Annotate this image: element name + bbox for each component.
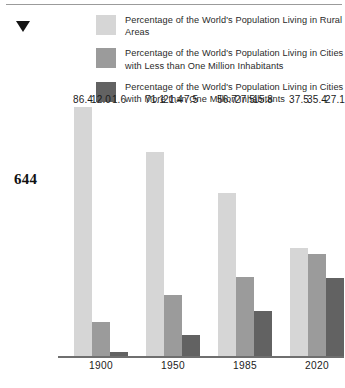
bar-column[interactable]: 86.4 <box>74 107 92 356</box>
bar-column[interactable]: 27.1 <box>326 107 344 356</box>
bar[interactable]: 37.5 <box>290 248 308 356</box>
top-divider <box>6 4 342 5</box>
bar-value-label: 35.4 <box>307 93 327 107</box>
bar[interactable]: 12.0 <box>92 322 110 357</box>
x-axis-tick-label: 1985 <box>218 356 272 376</box>
bar-group: 37.535.427.12020 <box>290 107 344 356</box>
bar-column[interactable]: 1.6 <box>110 107 128 356</box>
bar-column[interactable]: 7.5 <box>182 107 200 356</box>
bar-value-label: 27.5 <box>235 93 255 107</box>
bar[interactable]: 15.8 <box>254 311 272 357</box>
bar-value-label: 12.0 <box>91 93 111 107</box>
bar-value-label: 21.4 <box>163 93 183 107</box>
bar[interactable]: 56.7 <box>218 193 236 356</box>
bar[interactable]: 7.5 <box>182 335 200 357</box>
bar[interactable]: 27.1 <box>326 278 344 356</box>
bar-value-label: 86.4 <box>73 93 93 107</box>
bar-column[interactable]: 27.5 <box>236 107 254 356</box>
bar[interactable]: 86.4 <box>74 107 92 356</box>
x-axis-tick-label: 1950 <box>146 356 200 376</box>
chart-plot-area: 86.412.01.6190071.121.47.5195056.727.515… <box>58 60 344 358</box>
x-axis-tick-label: 1900 <box>74 356 128 376</box>
bar[interactable]: 21.4 <box>164 295 182 357</box>
bar[interactable]: 71.1 <box>146 152 164 357</box>
legend-swatch-rural <box>96 15 116 35</box>
bar-column[interactable]: 71.1 <box>146 107 164 356</box>
bar-column[interactable]: 12.0 <box>92 107 110 356</box>
legend-item: Percentage of the World's Population Liv… <box>96 14 344 38</box>
bar-group: 86.412.01.61900 <box>74 107 128 356</box>
x-axis-tick-label: 2020 <box>290 356 344 376</box>
bar-value-label: 7.5 <box>184 93 198 107</box>
bar-column[interactable]: 35.4 <box>308 107 326 356</box>
bar-value-label: 56.7 <box>217 93 237 107</box>
down-triangle-icon <box>16 21 30 32</box>
bar-column[interactable]: 56.7 <box>218 107 236 356</box>
bar-group: 71.121.47.51950 <box>146 107 200 356</box>
bar-value-label: 1.6 <box>112 93 126 107</box>
bar[interactable]: 27.5 <box>236 277 254 356</box>
bar-value-label: 15.8 <box>253 93 273 107</box>
bar-group: 56.727.515.81985 <box>218 107 272 356</box>
page-number: 644 <box>14 171 37 188</box>
bar-column[interactable]: 37.5 <box>290 107 308 356</box>
bar-value-label: 27.1 <box>325 93 345 107</box>
bar-column[interactable]: 15.8 <box>254 107 272 356</box>
bar-column[interactable]: 21.4 <box>164 107 182 356</box>
bar-value-label: 37.5 <box>289 93 309 107</box>
bar-value-label: 71.1 <box>145 93 165 107</box>
bar[interactable]: 35.4 <box>308 254 326 356</box>
legend-item-label: Percentage of the World's Population Liv… <box>125 14 344 38</box>
